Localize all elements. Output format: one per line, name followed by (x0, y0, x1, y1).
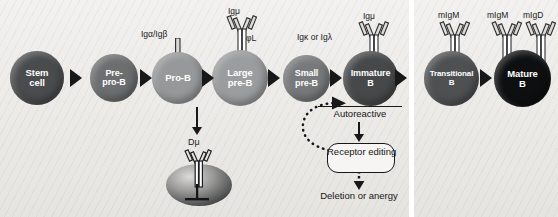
cell-stem-cell-label-1: Stem (26, 68, 49, 78)
cell-stem-cell[interactable]: Stem cell (10, 51, 64, 105)
cell-small-pre-b[interactable]: Small pre-B (283, 55, 330, 102)
cell-small-pre-b-label-2: pre-B (295, 79, 319, 88)
label-ig-kappa-or-lambda: Igκ or Igλ (297, 32, 332, 42)
cell-large-pre-b[interactable]: Large pre-B (212, 50, 268, 106)
cell-large-pre-b-label-1: Large (227, 68, 252, 78)
cell-transitional-b[interactable]: Transitional B (424, 51, 479, 106)
cell-pre-pro-b[interactable]: Pre- pro-B (90, 54, 138, 102)
label-ig-mu-immature: Igμ (363, 11, 375, 21)
label-receptor-editing: Receptor editing (327, 147, 393, 158)
arrow-stem-to-pre-pro-b (70, 69, 82, 87)
label-autoreactive: Autoreactive (318, 109, 402, 120)
arrow-pro-b-to-large-pre-b (202, 69, 214, 87)
cell-pre-pro-b-label-1: Pre- (102, 69, 126, 78)
cell-pre-pro-b-label-2: pro-B (102, 78, 126, 87)
label-receptor-editing-line-1: Receptor (327, 146, 366, 157)
cell-pro-b[interactable]: Pro-B (152, 52, 204, 104)
autoreactive-arrow-head (354, 134, 364, 142)
cell-transitional-b-label-1: Transitional (430, 70, 474, 78)
label-migm-mature: mIgM (487, 10, 508, 20)
arrow-small-pre-b-to-immature-b (330, 69, 342, 87)
cell-immature-b-label-2: B (351, 79, 391, 88)
arrow-pre-pro-b-to-pro-b (140, 69, 152, 87)
diagram-canvas: Igα/Igβ Igμ φL Igκ or Igλ Igμ mIgM mIgM … (0, 0, 558, 217)
label-deletion-or-anergy: Deletion or anergy (312, 191, 406, 202)
cell-pro-b-label-1: Pro-B (165, 73, 190, 83)
cell-small-pre-b-label-1: Small (295, 69, 319, 78)
label-migm-transitional: mIgM (438, 10, 459, 20)
label-surrogate-light-chain: φL (246, 33, 256, 43)
arrow-immature-b-to-transitional-b (395, 69, 407, 87)
label-deletion-line-2: anergy (369, 190, 398, 201)
cell-immature-b-label-1: Immature (351, 69, 391, 78)
cell-stem-cell-label-2: cell (26, 78, 49, 88)
label-ig-mu-large-pre-b: Igμ (228, 6, 240, 16)
cell-mature-b-label-2: B (507, 79, 538, 89)
cell-mature-b[interactable]: Mature B (494, 50, 551, 107)
label-deletion-line-1: Deletion or (320, 190, 366, 201)
dmu-branch-arrow-shaft (196, 107, 198, 129)
label-d-mu: Dμ (188, 137, 200, 147)
cell-large-pre-b-label-2: pre-B (227, 78, 252, 88)
dmu-cell[interactable] (163, 148, 235, 208)
dmu-branch-arrow-head (192, 127, 202, 135)
cell-immature-b[interactable]: Immature B (343, 51, 398, 106)
cell-transitional-b-label-2: B (430, 79, 474, 87)
arrow-large-pre-b-to-small-pre-b (268, 69, 280, 87)
deletion-arrow-dotted (350, 171, 368, 191)
cell-mature-b-label-1: Mature (507, 69, 538, 79)
label-ig-alpha-beta: Igα/Igβ (141, 29, 167, 39)
label-migd-mature: mIgD (523, 10, 543, 20)
label-receptor-editing-line-2: editing (368, 146, 396, 157)
arrow-transitional-b-to-mature-b (480, 69, 492, 87)
